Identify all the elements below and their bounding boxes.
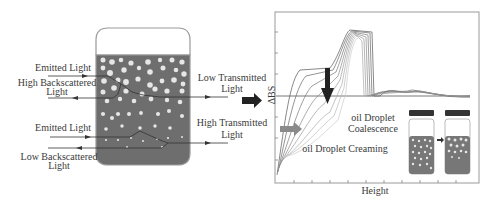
annotation-coalescence-2: Coalescence xyxy=(333,124,413,134)
y-axis-label: ΔBS xyxy=(267,85,277,105)
x-axis-label: Height xyxy=(345,186,405,196)
label-low-transmitted-2: Light xyxy=(192,84,272,94)
diagram-canvas xyxy=(0,0,490,206)
label-high-transmitted-2: Light xyxy=(192,130,272,140)
label-emitted-light-bottom: Emitted Light xyxy=(28,123,98,133)
annotation-coalescence: oil Droplet xyxy=(333,113,413,123)
transition-arrow-icon xyxy=(242,93,262,108)
label-low-backscattered-2: Light xyxy=(16,161,102,171)
label-high-transmitted: High Transmitted xyxy=(192,118,272,128)
label-high-backscattered-2: Light xyxy=(14,87,100,97)
vial-left xyxy=(96,28,190,165)
label-low-transmitted: Low Transmitted xyxy=(192,73,272,83)
annotation-creaming: oil Droplet Creaming xyxy=(290,144,400,154)
label-emitted-light-top: Emitted Light xyxy=(28,63,98,73)
